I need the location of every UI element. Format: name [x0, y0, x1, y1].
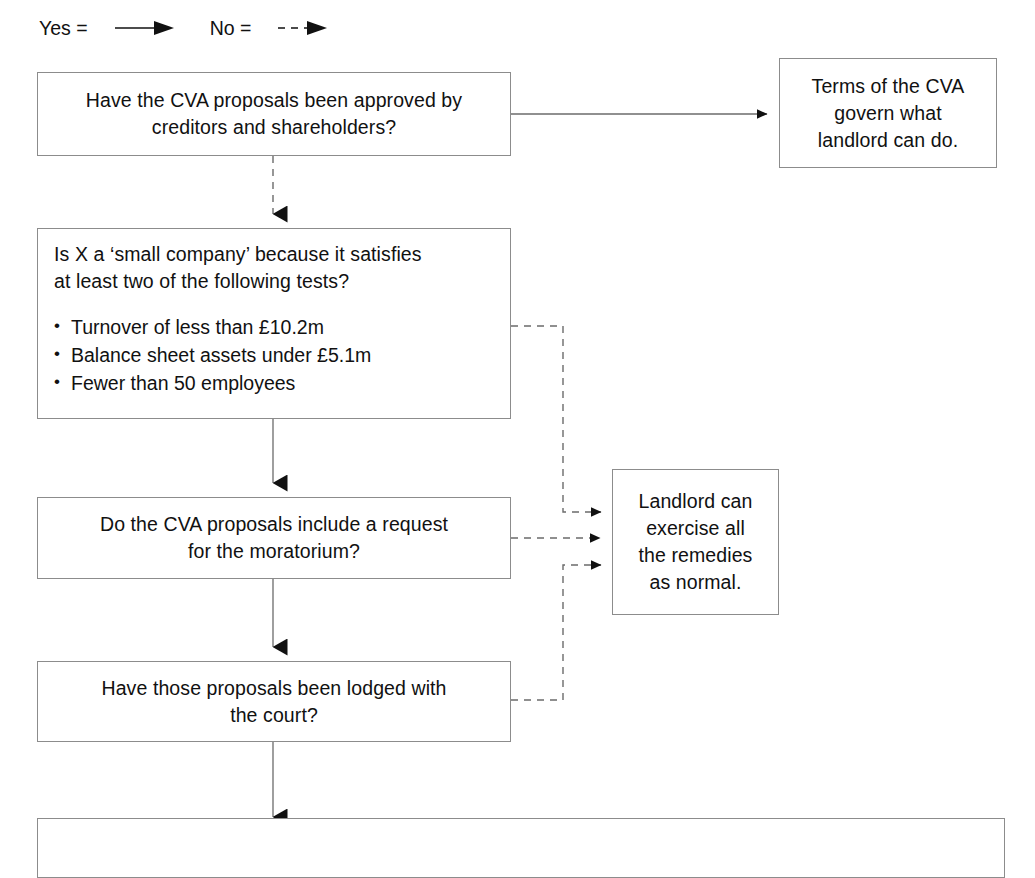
- node-landlord-remedies-line-3: the remedies: [613, 542, 778, 569]
- node-landlord-remedies-line-4: as normal.: [613, 569, 778, 596]
- node-cva-approved-line-2: creditors and shareholders?: [38, 114, 510, 141]
- node-small-company[interactable]: Is X a ‘small company’ because it satisf…: [37, 228, 511, 419]
- node-landlord-remedies-line-1: Landlord can: [613, 488, 778, 515]
- node-lodged-with-court-line-1: Have those proposals been lodged with: [38, 675, 510, 702]
- node-terms-govern-line-2: govern what: [780, 100, 996, 127]
- node-moratorium-request-line-1: Do the CVA proposals include a request: [38, 511, 510, 538]
- node-lodged-with-court-line-2: the court?: [38, 702, 510, 729]
- list-item: Turnover of less than £10.2m: [54, 313, 371, 341]
- node-moratorium-request[interactable]: Do the CVA proposals include a request f…: [37, 497, 511, 579]
- edge-lodged-no-to-landlord: [511, 565, 601, 700]
- edge-small-company-no-to-landlord: [511, 326, 601, 512]
- small-company-test-list: Turnover of less than £10.2m Balance she…: [54, 313, 371, 397]
- list-item: Fewer than 50 employees: [54, 369, 371, 397]
- node-terms-govern-line-1: Terms of the CVA: [780, 73, 996, 100]
- node-cva-approved-line-1: Have the CVA proposals been approved by: [38, 87, 510, 114]
- node-landlord-remedies-line-2: exercise all: [613, 515, 778, 542]
- node-moratorium-request-line-2: for the moratorium?: [38, 538, 510, 565]
- node-bottom-cut-off[interactable]: [37, 818, 1005, 878]
- list-item: Balance sheet assets under £5.1m: [54, 341, 371, 369]
- node-cva-approved[interactable]: Have the CVA proposals been approved by …: [37, 72, 511, 156]
- node-small-company-line-2: at least two of the following tests?: [54, 268, 496, 295]
- node-landlord-remedies[interactable]: Landlord can exercise all the remedies a…: [612, 469, 779, 615]
- node-terms-govern[interactable]: Terms of the CVA govern what landlord ca…: [779, 58, 997, 168]
- node-terms-govern-line-3: landlord can do.: [780, 127, 996, 154]
- node-lodged-with-court[interactable]: Have those proposals been lodged with th…: [37, 661, 511, 742]
- node-small-company-line-1: Is X a ‘small company’ because it satisf…: [54, 241, 496, 268]
